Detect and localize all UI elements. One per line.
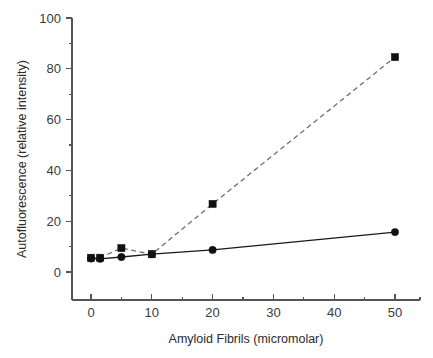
data-point-square bbox=[391, 54, 398, 61]
y-tick-label: 60 bbox=[47, 112, 61, 127]
data-point-square bbox=[209, 200, 216, 207]
x-tick-label: 40 bbox=[327, 305, 341, 320]
data-point-circle bbox=[391, 228, 398, 235]
plot-area: 01020304050 020406080100 Amyloid Fibrils… bbox=[0, 0, 433, 358]
y-tick-label: 80 bbox=[47, 61, 61, 76]
data-point-circle bbox=[209, 246, 216, 253]
y-axis-label: Autofluorescence (relative intensity) bbox=[15, 60, 29, 258]
y-tick-label: 20 bbox=[47, 214, 61, 229]
x-tick-label: 50 bbox=[388, 305, 402, 320]
data-point-circle bbox=[87, 255, 94, 262]
x-axis-label: Amyloid Fibrils (micromolar) bbox=[169, 332, 324, 346]
x-tick-label: 10 bbox=[145, 305, 159, 320]
data-point-circle bbox=[148, 251, 155, 258]
y-tick-label: 40 bbox=[47, 163, 61, 178]
data-point-circle bbox=[118, 253, 125, 260]
x-tick-label: 0 bbox=[87, 305, 94, 320]
chart-figure: 01020304050 020406080100 Amyloid Fibrils… bbox=[0, 0, 433, 358]
y-tick-label: 0 bbox=[54, 265, 61, 280]
x-tick-label: 20 bbox=[205, 305, 219, 320]
data-point-circle bbox=[96, 255, 103, 262]
data-point-square bbox=[118, 245, 125, 252]
x-tick-label: 30 bbox=[266, 305, 280, 320]
y-tick-label: 100 bbox=[39, 11, 61, 26]
